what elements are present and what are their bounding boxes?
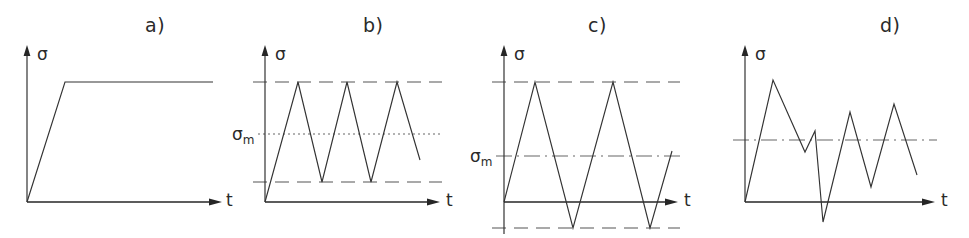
stress-cycle-figure: a) σ t b) σ t σm c) σ t σm (0, 0, 969, 238)
x-axis-arrowhead-d (922, 198, 935, 205)
y-axis-arrowhead-d (742, 45, 749, 56)
panel-d-plot (0, 0, 969, 238)
stress-curve-d (745, 80, 917, 222)
axes-d (742, 45, 935, 206)
